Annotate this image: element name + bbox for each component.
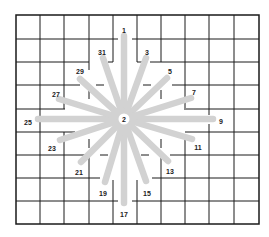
ray-label: 19: [99, 190, 107, 197]
ray-label: 9: [219, 118, 223, 125]
ray-label: 27: [52, 91, 60, 98]
ray-label: 25: [24, 119, 32, 126]
ray-label: 15: [143, 190, 151, 197]
ray-label: 11: [194, 144, 202, 151]
ray-label: 29: [76, 68, 84, 75]
ray-label: 3: [145, 49, 149, 56]
center-label: 2: [122, 116, 126, 123]
ray-label: 31: [98, 49, 106, 56]
ray-label: 17: [120, 211, 128, 218]
ray-label: 5: [168, 68, 172, 75]
ray-label: 21: [75, 169, 83, 176]
ray-label: 13: [166, 168, 174, 175]
center-hub: 2: [119, 114, 130, 125]
ray-label: 1: [122, 27, 126, 34]
ray-label: 7: [192, 89, 196, 96]
ray-label: 23: [48, 145, 56, 152]
star-grid-diagram: 2 135791113151719212325272931: [0, 0, 269, 237]
